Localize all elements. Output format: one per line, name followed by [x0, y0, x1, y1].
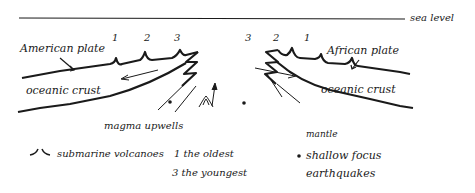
- magma-upwells-label: magma upwells: [104, 121, 183, 131]
- left-ridge-edge: [182, 52, 198, 86]
- volcano-number: 3: [174, 33, 180, 43]
- sea-level-line: [19, 18, 405, 19]
- quake-marker-left: [168, 100, 172, 104]
- legend-oldest: 1 the oldest: [174, 149, 234, 159]
- volcano-number: 1: [112, 33, 118, 43]
- volcano-number: 3: [245, 33, 251, 43]
- legend-youngest: 3 the youngest: [172, 168, 247, 178]
- volcano-number: 2: [273, 33, 279, 43]
- mantle-label: mantle: [306, 130, 338, 139]
- legend-volcanoes: submarine volcanoes: [57, 149, 164, 159]
- legend-quakes-line2: earthquakes: [306, 168, 375, 179]
- african-plate-label: African plate: [327, 45, 399, 56]
- quake-marker-right: [242, 101, 246, 105]
- american-plate-label: American plate: [20, 43, 105, 54]
- right-ridge-edge: [265, 50, 278, 84]
- legend-quakes-line1: shallow focus: [306, 150, 381, 161]
- volcano-number: 1: [304, 33, 310, 43]
- sea-level-label: sea level: [410, 13, 454, 23]
- oceanic-crust-left-label: oceanic crust: [26, 85, 101, 96]
- volcano-number: 2: [144, 33, 150, 43]
- oceanic-crust-right-label: oceanic crust: [321, 84, 396, 95]
- ridge-diagram: sea level 1 2 3 3 2 1 American plate Afr…: [0, 0, 475, 193]
